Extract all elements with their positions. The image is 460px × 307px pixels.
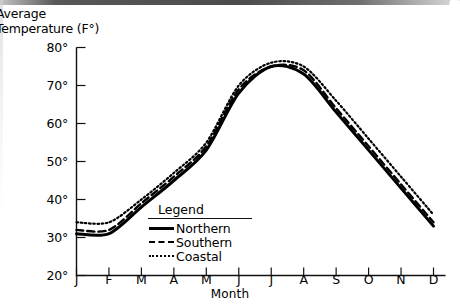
y-tick-label: 80° [24,40,68,55]
x-tick-label: M [197,272,215,287]
series-line-southern [77,65,434,232]
legend-swatch-dashed [148,236,176,248]
legend-entries: NorthernSouthernCoastal [148,221,252,263]
legend-label: Southern [176,236,232,249]
legend-label: Coastal [176,250,222,263]
x-tick-label: A [165,272,183,287]
legend-swatch-dotted [148,250,176,262]
x-tick-label: D [425,272,443,287]
legend-divider [148,218,252,219]
series-line-coastal [77,61,434,224]
y-tick-label: 70° [24,78,68,93]
x-tick-label: A [295,272,313,287]
legend-entry-northern: Northern [148,221,252,235]
x-tick-label: F [100,272,118,287]
x-tick-label: J [262,272,280,287]
y-tick-label: 50° [24,154,68,169]
y-tick-label: 60° [24,116,68,131]
y-tick-label: 40° [24,192,68,207]
chart-legend: Legend NorthernSouthernCoastal [148,203,252,263]
chart-axes [77,48,446,276]
y-tick-label: 30° [24,230,68,245]
legend-title: Legend [148,203,252,217]
x-tick-label: S [327,272,345,287]
x-tick-label: J [68,272,86,287]
legend-entry-southern: Southern [148,235,252,249]
y-tick-label: 20° [24,268,68,283]
legend-label: Northern [176,222,231,235]
x-tick-label: J [230,272,248,287]
x-tick-label: M [132,272,150,287]
x-axis-title: Month [0,287,460,301]
x-tick-label: N [392,272,410,287]
legend-swatch-solid [148,222,176,234]
legend-entry-coastal: Coastal [148,249,252,263]
chart-series [77,61,434,235]
x-tick-label: O [360,272,378,287]
